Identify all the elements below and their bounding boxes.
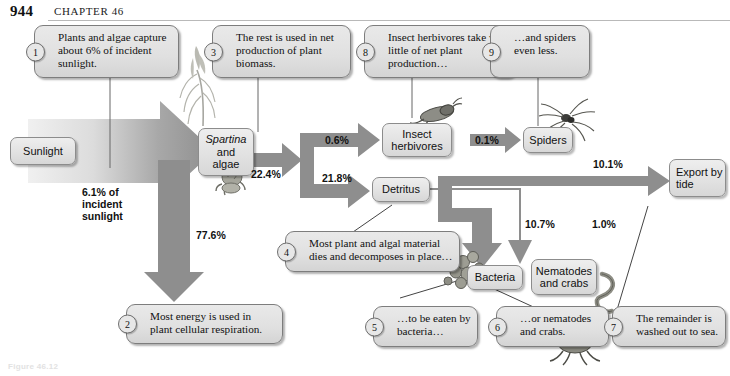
node-sunlight-label: Sunlight bbox=[23, 145, 63, 158]
callout-2-number: 2 bbox=[118, 315, 137, 334]
callout-6[interactable]: 6 …or nematodes and crabs. bbox=[496, 306, 609, 347]
node-spartina-label-italic: Spartina bbox=[206, 133, 247, 146]
callout-9-number: 9 bbox=[482, 42, 501, 61]
sunlight-label-line1: 6.1% of bbox=[82, 186, 123, 198]
node-spartina-label-line3: algae bbox=[213, 158, 240, 171]
figure-canvas: 944 CHAPTER 46 bbox=[0, 0, 730, 376]
callout-6-number: 6 bbox=[488, 317, 507, 336]
callout-5-number: 5 bbox=[365, 317, 384, 336]
flow-label-22-4: 22.4% bbox=[251, 168, 281, 180]
callout-8-number: 8 bbox=[356, 42, 375, 61]
node-export-by-tide[interactable]: Export by tide bbox=[669, 159, 726, 197]
node-detritus-label: Detritus bbox=[382, 183, 420, 196]
callout-4[interactable]: 4 Most plant and algal material dies and… bbox=[285, 231, 460, 272]
callout-9[interactable]: 9 …and spiders even less. bbox=[490, 25, 590, 78]
node-spiders-label: Spiders bbox=[529, 134, 566, 147]
callout-2-text: Most energy is used in plant cellular re… bbox=[150, 310, 276, 336]
flow-label-10-1: 10.1% bbox=[593, 158, 623, 170]
node-nematodes-label-line2: and crabs bbox=[540, 277, 588, 290]
node-bacteria-label: Bacteria bbox=[475, 271, 515, 284]
callout-4-number: 4 bbox=[277, 242, 296, 261]
nematode-feed-line bbox=[519, 188, 521, 244]
flow-label-10-7: 10.7% bbox=[525, 218, 555, 230]
callout-6-text: …or nematodes and crabs. bbox=[520, 312, 602, 338]
callout-7-text: The remainder is washed out to sea. bbox=[636, 312, 719, 338]
callout-1-text: Plants and algae capture about 6% of inc… bbox=[58, 31, 172, 70]
node-insect-label-line1: Insect bbox=[402, 128, 431, 141]
flow-label-0-1: 0.1% bbox=[475, 134, 499, 146]
callout-3-text: The rest is used in net production of pl… bbox=[236, 31, 344, 70]
node-nematodes-label-line1: Nematodes bbox=[536, 265, 592, 278]
callout-1-number: 1 bbox=[26, 42, 45, 61]
callout-3[interactable]: 3 The rest is used in net production of … bbox=[212, 25, 351, 78]
node-export-label-line2: tide bbox=[676, 178, 694, 191]
arrowhead-nematodes bbox=[508, 240, 532, 264]
node-spartina-and-algae[interactable]: Spartina and algae bbox=[198, 128, 254, 176]
node-detritus[interactable]: Detritus bbox=[372, 177, 430, 202]
flow-label-77-6: 77.6% bbox=[196, 229, 226, 241]
callout-3-number: 3 bbox=[204, 42, 223, 61]
callout-2[interactable]: 2 Most energy is used in plant cellular … bbox=[126, 304, 283, 344]
callout-7[interactable]: 7 The remainder is washed out to sea. bbox=[612, 306, 726, 347]
callout-7-number: 7 bbox=[604, 317, 623, 336]
flow-label-0-6: 0.6% bbox=[325, 134, 349, 146]
node-spartina-label-line2: and bbox=[217, 146, 235, 159]
flow-label-sunlight: 6.1% of incident sunlight bbox=[82, 186, 123, 222]
node-insect-herbivores[interactable]: Insect herbivores bbox=[382, 123, 452, 157]
callout-5-text: …to be eaten by bacteria… bbox=[397, 312, 471, 338]
node-spiders[interactable]: Spiders bbox=[523, 127, 573, 153]
node-bacteria[interactable]: Bacteria bbox=[467, 265, 523, 290]
flow-label-21-8: 21.8% bbox=[322, 172, 352, 184]
callout-1[interactable]: 1 Plants and algae capture about 6% of i… bbox=[34, 25, 179, 78]
arrow-detritus-to-export bbox=[438, 166, 670, 196]
callout-9-text: …and spiders even less. bbox=[514, 31, 583, 57]
node-insect-label-line2: herbivores bbox=[391, 140, 442, 153]
figure-caption: Figure 46.12 bbox=[8, 362, 58, 371]
leader-callout-7 bbox=[617, 206, 648, 310]
node-nematodes-and-crabs[interactable]: Nematodes and crabs bbox=[531, 259, 597, 295]
flow-label-1-0: 1.0% bbox=[592, 218, 616, 230]
node-export-label-line1: Export by bbox=[676, 166, 722, 179]
node-sunlight[interactable]: Sunlight bbox=[10, 137, 76, 165]
sunlight-label-line2: incident bbox=[82, 198, 123, 210]
callout-5[interactable]: 5 …to be eaten by bacteria… bbox=[373, 306, 478, 347]
sunlight-label-line3: sunlight bbox=[82, 210, 123, 222]
callout-4-text: Most plant and algal material dies and d… bbox=[309, 237, 453, 263]
